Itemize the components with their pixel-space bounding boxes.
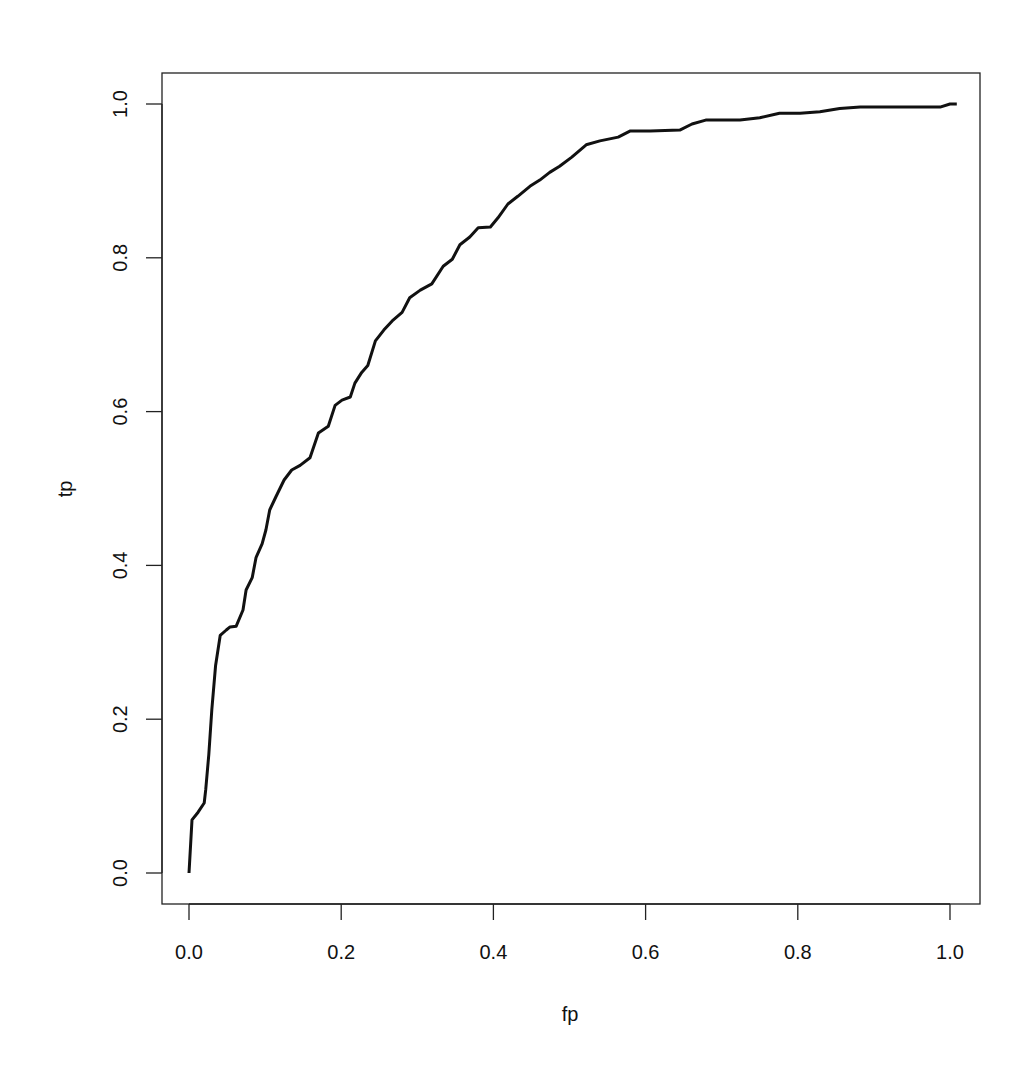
y-tick-label: 0.6 — [109, 398, 131, 426]
plot-frame — [162, 73, 980, 904]
x-tick-label: 1.0 — [936, 941, 964, 963]
x-tick-label: 0.6 — [632, 941, 660, 963]
y-tick-label: 0.4 — [109, 551, 131, 579]
y-tick-label: 0.0 — [109, 859, 131, 887]
y-tick-label: 1.0 — [109, 90, 131, 118]
x-axis-label: fp — [562, 1003, 579, 1025]
roc-chart: 0.00.20.40.60.81.0 0.00.20.40.60.81.0 fp… — [0, 0, 1036, 1066]
x-axis: 0.00.20.40.60.81.0 — [175, 904, 964, 963]
y-axis-label: tp — [54, 481, 76, 498]
x-tick-label: 0.8 — [784, 941, 812, 963]
y-tick-label: 0.8 — [109, 244, 131, 272]
x-tick-label: 0.2 — [327, 941, 355, 963]
roc-curve-line — [189, 104, 957, 873]
x-tick-label: 0.4 — [479, 941, 507, 963]
y-tick-label: 0.2 — [109, 705, 131, 733]
y-axis: 0.00.20.40.60.81.0 — [109, 90, 162, 887]
x-tick-label: 0.0 — [175, 941, 203, 963]
